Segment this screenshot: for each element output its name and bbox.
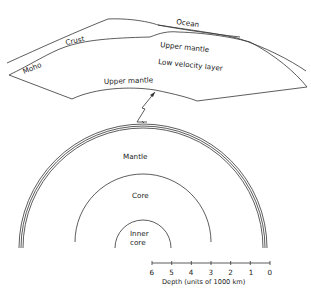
- scale-tick-label: 2: [228, 268, 233, 277]
- earth-cross-section: Mantle Core Inner core: [19, 124, 267, 248]
- earth-structure-diagram: Ocean Crust Moho Upper mantle Low veloci…: [0, 0, 311, 293]
- ocean-label: Ocean: [176, 17, 200, 29]
- inner-core-label-line2: core: [130, 238, 146, 247]
- upper-mantle-top-label: Upper mantle: [160, 40, 210, 54]
- scale-tick-label: 3: [209, 268, 214, 277]
- cross-section: Ocean Crust Moho Upper mantle Low veloci…: [7, 17, 307, 101]
- zoom-arrow-icon: [137, 92, 155, 123]
- moho-label: Moho: [21, 60, 43, 76]
- low-velocity-layer-label: Low velocity layer: [158, 57, 223, 73]
- depth-scale: 6 5 4 3 2 1 0 Depth (units of 1000 km): [150, 261, 273, 286]
- scale-tick-label: 6: [150, 268, 155, 277]
- mantle-label: Mantle: [123, 152, 148, 161]
- scale-tick-label: 1: [249, 268, 254, 277]
- scale-caption: Depth (units of 1000 km): [162, 278, 245, 286]
- scale-tick-label: 4: [189, 268, 194, 277]
- surface-line: [7, 19, 306, 71]
- section-bottom-line: [9, 75, 307, 101]
- scale-tick-label: 0: [268, 268, 273, 277]
- inner-core-label-line1: Inner: [130, 229, 149, 238]
- scale-tick-label: 5: [169, 268, 174, 277]
- upper-mantle-bottom-label: Upper mantle: [104, 75, 154, 86]
- core-label: Core: [132, 191, 149, 200]
